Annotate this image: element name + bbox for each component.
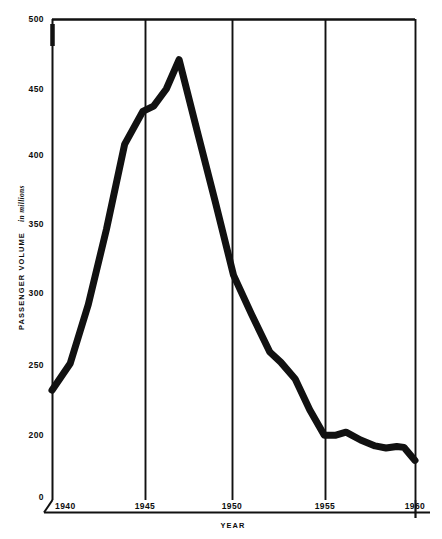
y-tick-500: 500 [29, 14, 44, 24]
y-tick-300: 300 [29, 288, 44, 298]
x-tick-1960: 1960 [405, 501, 426, 511]
y-tick-200: 200 [29, 430, 44, 440]
x-tick-1945: 1945 [135, 501, 156, 511]
y-axis-title: PASSENGER VOLUME [17, 232, 26, 330]
x-tick-1950: 1950 [222, 501, 243, 511]
y-axis-title-units: in millions [17, 185, 26, 222]
y-tick-350: 350 [29, 219, 44, 229]
chart-page: 500 450 400 350 300 250 200 0 1940 1945 … [0, 0, 442, 539]
x-tick-1955: 1955 [315, 501, 336, 511]
passenger-volume-line-chart: 500 450 400 350 300 250 200 0 1940 1945 … [0, 0, 442, 539]
x-axis-title: YEAR [220, 521, 245, 530]
y-tick-0: 0 [39, 492, 44, 502]
y-tick-400: 400 [29, 150, 44, 160]
x-tick-1940: 1940 [55, 501, 76, 511]
chart-background [0, 0, 442, 539]
y-tick-450: 450 [29, 84, 44, 94]
y-tick-250: 250 [29, 360, 44, 370]
